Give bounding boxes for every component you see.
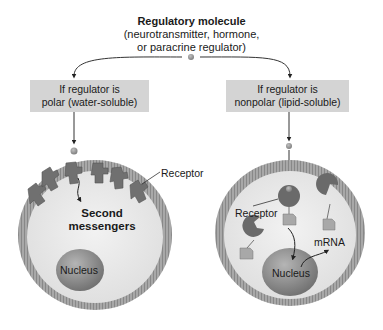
polar-target-cell <box>18 160 172 310</box>
second-messengers-line2: messengers <box>62 220 142 233</box>
left-nucleus-label: Nucleus <box>60 264 98 276</box>
nonpolar-condition-line2: nonpolar (lipid-soluble) <box>230 96 345 109</box>
left-receptor-label: Receptor <box>161 167 204 179</box>
title-heading: Regulatory molecule <box>0 15 383 28</box>
polar-condition-line1: If regulator is <box>34 83 145 96</box>
nonpolar-molecule-icon <box>286 143 292 149</box>
diagram-title: Regulatory molecule (neurotransmitter, h… <box>0 15 383 54</box>
mrna-label: mRNA <box>314 236 345 248</box>
regulatory-molecule-icon <box>188 54 194 60</box>
right-nucleus-label: Nucleus <box>272 267 310 279</box>
polar-molecule-icon <box>71 148 78 155</box>
nonpolar-condition-box: If regulator is nonpolar (lipid-soluble) <box>226 80 349 112</box>
second-messengers-line1: Second <box>62 207 142 220</box>
second-messengers-label: Second messengers <box>62 207 142 233</box>
title-subtitle-1: (neurotransmitter, hormone, <box>0 28 383 41</box>
title-subtitle-2: or paracrine regulator) <box>0 41 383 54</box>
branch-arrows <box>74 57 290 76</box>
right-receptor-label: Receptor <box>235 207 278 219</box>
polar-condition-box: If regulator is polar (water-soluble) <box>30 80 149 112</box>
nonpolar-condition-line1: If regulator is <box>230 83 345 96</box>
nonpolar-target-cell <box>215 160 365 306</box>
polar-condition-line2: polar (water-soluble) <box>34 96 145 109</box>
